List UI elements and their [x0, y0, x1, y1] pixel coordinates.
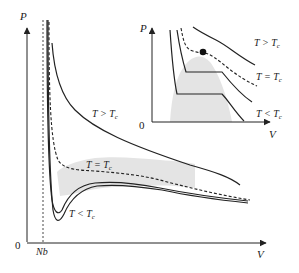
- inset-label-critical: T = Tc: [256, 71, 283, 84]
- inset-label-below-critical: T < Tc: [256, 108, 283, 121]
- inset-plot: P V 0 T > Tc T = Tc T < Tc: [139, 22, 283, 140]
- label-below-critical: T < Tc: [69, 208, 96, 221]
- inset-coexistence-dome: [170, 56, 232, 122]
- inset-label-above-critical: T > Tc: [254, 37, 281, 50]
- main-y-label: P: [19, 10, 27, 22]
- inset-x-label: V: [269, 128, 277, 140]
- nb-label: Nb: [35, 246, 48, 257]
- inset-y-label: P: [139, 22, 147, 34]
- label-above-critical: T > Tc: [92, 108, 119, 121]
- inset-critical-point: [200, 49, 207, 56]
- main-origin-label: 0: [15, 239, 21, 251]
- main-x-label: V: [257, 248, 265, 260]
- inset-origin-label: 0: [139, 119, 145, 131]
- pv-diagram: P V 0 Nb T > Tc T = Tc T < Tc P V: [0, 0, 299, 273]
